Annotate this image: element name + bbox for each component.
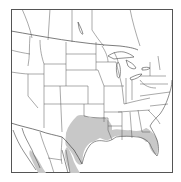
range-map: [0, 0, 181, 182]
map-frame: [12, 10, 173, 173]
map-canvas: [0, 0, 181, 182]
